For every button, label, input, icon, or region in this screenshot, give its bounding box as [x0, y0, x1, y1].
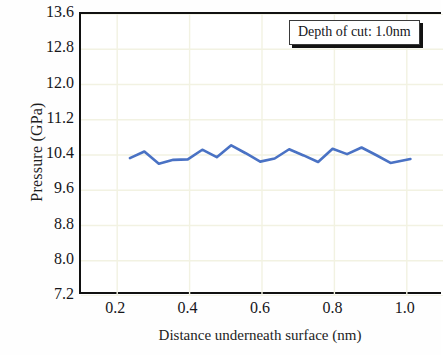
y-tick-label: 8.8 [2, 215, 74, 233]
y-tick-label: 8.0 [2, 250, 74, 268]
y-tick-label: 12.8 [2, 38, 74, 56]
x-tick-label: 0.4 [158, 299, 218, 317]
y-tick-label: 7.2 [2, 285, 74, 303]
y-tick-label: 10.4 [2, 144, 74, 162]
x-axis-title: Distance underneath surface (nm) [79, 327, 441, 344]
x-tick-label: 0.6 [230, 299, 290, 317]
y-tick-label: 13.6 [2, 3, 74, 21]
plot-area [79, 12, 441, 294]
x-tick-label: 0.8 [302, 299, 362, 317]
data-line-series [81, 14, 443, 296]
x-tick-label: 1.0 [375, 299, 435, 317]
y-tick-label: 11.2 [2, 109, 74, 127]
legend-label: Depth of cut: 1.0nm [298, 24, 411, 39]
y-tick-label: 12.0 [2, 74, 74, 92]
x-tick-label: 0.2 [85, 299, 145, 317]
y-axis-tick-labels: 13.612.812.011.210.49.68.88.07.2 [0, 0, 74, 355]
y-tick-label: 9.6 [2, 179, 74, 197]
legend-box: Depth of cut: 1.0nm [289, 20, 420, 45]
